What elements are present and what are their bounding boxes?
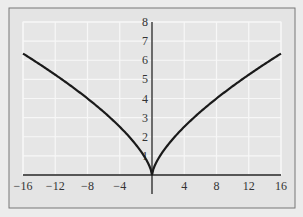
x-tick-label: 12 [243,179,255,193]
y-tick-label: 8 [142,15,148,29]
y-tick-label: 7 [142,34,148,48]
x-tick-label: −8 [81,179,94,193]
chart: −16−12−8−448121612345678 [0,0,303,217]
y-tick-label: 3 [142,111,148,125]
y-tick-label: 5 [142,72,148,86]
x-tick-label: 8 [214,179,220,193]
x-tick-label: 4 [181,179,187,193]
y-tick-label: 4 [142,92,148,106]
y-tick-label: 6 [142,53,148,67]
y-tick-label: 2 [142,130,148,144]
x-tick-label: −4 [113,179,126,193]
x-tick-label: 16 [275,179,287,193]
x-tick-label: −16 [14,179,33,193]
x-tick-label: −12 [46,179,65,193]
